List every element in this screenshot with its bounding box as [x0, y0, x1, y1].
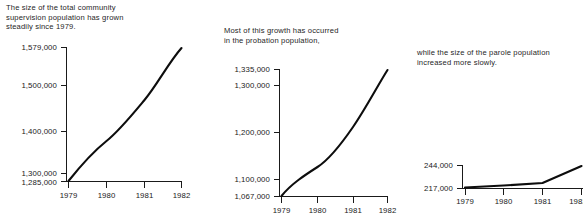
y-tick-label-244000: 244,000: [424, 161, 453, 170]
y-tick-label-1300000: 1,300,000: [21, 169, 57, 178]
y-tick-label-1500000: 1,500,000: [21, 81, 57, 90]
chart-parole: 244,000 217,000 1979 1980 1981 1982: [417, 158, 583, 218]
chart-parole-svg: 244,000 217,000 1979 1980 1981 1982: [417, 158, 583, 218]
x-tick-label-1981: 1981: [534, 197, 552, 206]
panel-probation: Most of this growth has occurred in the …: [224, 26, 409, 45]
series-line-probation: [282, 70, 388, 196]
x-tick-label-1982: 1982: [173, 191, 191, 200]
x-tick-label-1980: 1980: [495, 197, 513, 206]
x-tick-label-1980: 1980: [309, 206, 327, 215]
y-tick-label-1579000: 1,579,000: [21, 43, 57, 52]
y-tick-label-1067000: 1,067,000: [234, 192, 270, 201]
panel-total-supervision: The size of the total community supervis…: [6, 3, 211, 32]
chart-total-svg: 1,579,000 1,500,000 1,400,000 1,300,000 …: [6, 41, 211, 221]
y-tick-label-1200000: 1,200,000: [234, 128, 270, 137]
y-tick-label-217000: 217,000: [424, 184, 453, 193]
y-tick-label-1100000: 1,100,000: [234, 175, 270, 184]
chart-probation: 1,335,000 1,300,000 1,200,000 1,100,000 …: [224, 50, 409, 222]
chart-probation-svg: 1,335,000 1,300,000 1,200,000 1,100,000 …: [224, 50, 409, 222]
x-tick-label-1981: 1981: [344, 206, 362, 215]
series-line-total-supervision: [69, 48, 182, 181]
x-tick-label-1979: 1979: [273, 206, 291, 215]
panel-parole-caption: while the size of the parole population …: [417, 48, 580, 67]
x-tick-label-1980: 1980: [98, 191, 116, 200]
panel-probation-caption: Most of this growth has occurred in the …: [224, 26, 409, 45]
x-tick-label-1982: 1982: [569, 197, 583, 206]
y-tick-label-1300000: 1,300,000: [234, 81, 270, 90]
y-tick-label-1400000: 1,400,000: [21, 127, 57, 136]
x-tick-label-1979: 1979: [60, 191, 78, 200]
series-line-parole: [465, 166, 582, 188]
y-tick-label-1285000: 1,285,000: [21, 178, 57, 187]
x-tick-label-1981: 1981: [136, 191, 154, 200]
panel-parole: while the size of the parole population …: [417, 48, 583, 67]
x-tick-label-1982: 1982: [379, 206, 397, 215]
chart-total-supervision: 1,579,000 1,500,000 1,400,000 1,300,000 …: [6, 41, 211, 221]
x-tick-label-1979: 1979: [456, 197, 474, 206]
y-tick-label-1335000: 1,335,000: [234, 65, 270, 74]
panel-total-caption: The size of the total community supervis…: [6, 3, 206, 32]
